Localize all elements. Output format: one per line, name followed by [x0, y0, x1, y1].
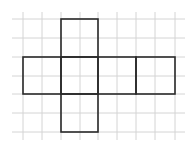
cube-net-diagram: [0, 0, 194, 149]
